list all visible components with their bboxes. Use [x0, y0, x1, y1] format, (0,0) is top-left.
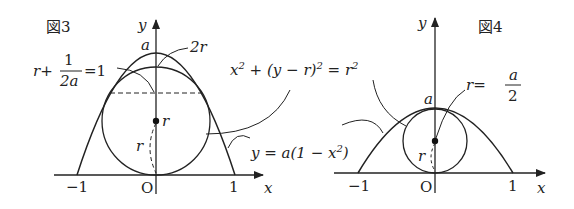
leader-circle-eq: [206, 90, 290, 134]
origin-label: O: [420, 178, 432, 196]
radius-arc: [150, 123, 156, 173]
leader-r-eq: [436, 90, 465, 138]
radius-label: r: [418, 147, 426, 165]
x-tick-1: 1: [508, 177, 518, 195]
apex-label: a: [424, 90, 433, 108]
diagram-stage: 図3 y a 2r r r r+ 1 2a: [0, 0, 574, 209]
y-axis-label: y: [417, 14, 427, 32]
condition-denominator: 2: [508, 87, 518, 105]
radius-label: r: [136, 137, 144, 155]
x-axis-label: x: [264, 179, 273, 197]
center-label: r: [162, 112, 170, 130]
condition-prefix: r=: [466, 76, 486, 94]
figure-4: 図4 y a r r= a 2 −1 O 1 x: [334, 14, 546, 197]
diagram-svg: 図3 y a 2r r r r+ 1 2a: [0, 0, 574, 209]
figure-3-title: 図3: [46, 18, 71, 36]
condition-label: r= a 2: [466, 66, 521, 105]
leader-circle-eq: [373, 80, 406, 126]
origin-label: O: [141, 179, 153, 197]
curve-equation: y = a(1 − x2): [250, 143, 349, 162]
leader-curve-eq: [228, 136, 250, 148]
circle-equation: x2 + (y − r)2 = r2: [230, 60, 358, 79]
condition-label: r+ 1 2a =1: [33, 51, 106, 90]
label-2r: 2r: [189, 38, 208, 56]
x-tick-neg1: −1: [348, 177, 370, 195]
x-tick-neg1: −1: [66, 178, 88, 196]
leader-2r: [158, 48, 188, 66]
apex-label: a: [141, 36, 150, 54]
condition-numerator: a: [509, 66, 518, 84]
figure-4-title: 図4: [478, 18, 503, 36]
leader-curve-eq: [342, 120, 383, 133]
condition-suffix: =1: [84, 62, 106, 80]
x-axis-label: x: [537, 179, 546, 197]
figure-3: 図3 y a 2r r r r+ 1 2a: [33, 16, 290, 197]
condition-numerator: 1: [64, 51, 74, 69]
condition-prefix: r+: [33, 62, 53, 80]
condition-denominator: 2a: [59, 72, 79, 90]
y-axis-label: y: [137, 16, 147, 34]
x-tick-1: 1: [229, 178, 239, 196]
